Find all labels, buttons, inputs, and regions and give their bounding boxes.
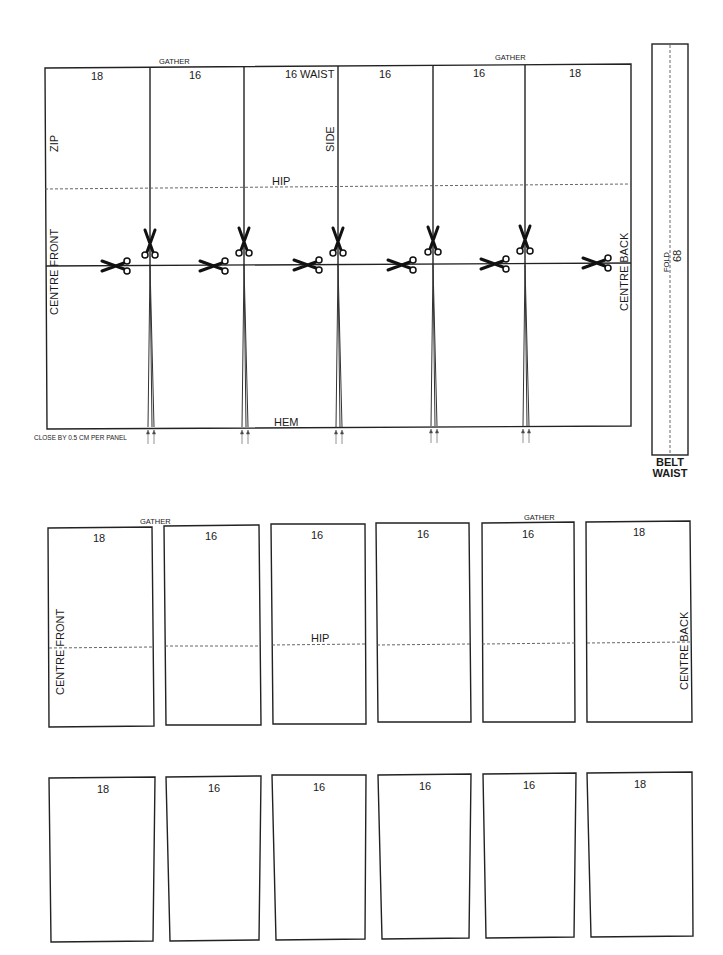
gather-label-front: GATHER (140, 517, 171, 526)
panel-piece (482, 522, 575, 722)
panel-width-label: 18 (569, 67, 581, 79)
waist-belt-piece: 68 FOLD BELT WAIST (652, 44, 688, 479)
panel-width-label: 16 (285, 68, 297, 80)
panel-piece (586, 521, 692, 722)
panel-width-label: 16 (189, 69, 201, 81)
close-arrows (147, 429, 531, 444)
panel-width-label: 18 (91, 70, 103, 82)
panel-width-label: 16 (205, 530, 217, 542)
separated-panels: GATHER GATHER 18 16 16 16 16 18 HIP CENT… (48, 513, 692, 727)
close-note: CLOSE BY 0.5 CM PER PANEL (34, 434, 127, 441)
scissors-icons (102, 226, 611, 274)
panel-width-label: 16 (522, 528, 534, 540)
scissors-icon (388, 257, 416, 273)
panel-width-label: 16 (419, 780, 431, 792)
hip-label: HIP (311, 632, 329, 644)
panel-piece (164, 525, 261, 725)
panel-width-label: 18 (633, 526, 645, 538)
scissors-icon (200, 258, 228, 274)
hip-line (482, 643, 575, 644)
centre-back-label: CENTRE BACK (678, 611, 690, 690)
centre-front-label: CENTRE FRONT (48, 229, 60, 315)
zip-label: ZIP (48, 135, 60, 152)
panel-piece (271, 524, 366, 724)
panel-piece (166, 776, 261, 941)
skirt-pattern-diagram: GATHER GATHER 18 16 16 WAIST 16 16 18 ZI… (0, 0, 723, 955)
hip-line (587, 642, 691, 643)
panel-piece (49, 777, 155, 942)
panel-width-label: 18 (93, 532, 105, 544)
hip-line (377, 644, 470, 645)
hip-line (272, 644, 366, 645)
panel-width-label: 16 (208, 782, 220, 794)
hip-label: HIP (272, 175, 290, 187)
panel-width-label: 16 (473, 67, 485, 79)
assembled-skirt-pattern: GATHER GATHER 18 16 16 WAIST 16 16 18 ZI… (34, 53, 631, 444)
dart-splits (148, 265, 529, 427)
centre-front-label: CENTRE FRONT (54, 609, 66, 695)
hem-label: HEM (274, 416, 298, 428)
panel-piece (378, 774, 471, 939)
panel-width-label: 16 (311, 529, 323, 541)
panel-width-label: 18 (634, 778, 646, 790)
panel-piece (272, 775, 366, 940)
side-label: SIDE (324, 126, 336, 152)
panel-width-label: 16 (417, 528, 429, 540)
gather-label-front: GATHER (159, 57, 190, 66)
gather-label-back: GATHER (524, 513, 555, 522)
panel-width-label: 16 (313, 781, 325, 793)
flared-panels: 18 16 16 16 16 18 (49, 772, 693, 942)
panel-piece (376, 523, 471, 722)
panel-width-label: 18 (97, 783, 109, 795)
gather-label-back: GATHER (495, 53, 526, 62)
panel-piece (587, 772, 693, 937)
panel-piece (483, 773, 576, 938)
belt-title-line2: WAIST (653, 467, 688, 479)
waist-label: WAIST (300, 68, 335, 80)
belt-length-label: 68 (671, 250, 683, 262)
panel-width-label: 16 (523, 779, 535, 791)
centre-back-label: CENTRE BACK (618, 232, 630, 311)
panel-width-label: 16 (379, 68, 391, 80)
fold-label: FOLD (662, 251, 671, 272)
